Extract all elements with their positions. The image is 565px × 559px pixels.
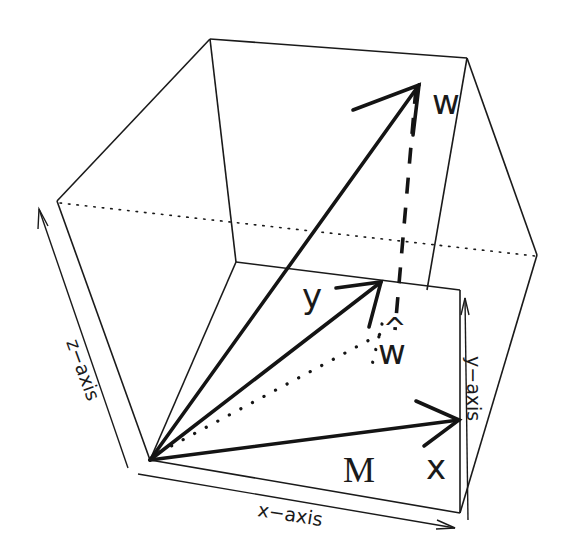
y-axis-label: y−axis (463, 356, 485, 421)
box-edge-right-top (467, 58, 537, 255)
box-edge-left-vertical (57, 201, 150, 460)
box-edge-top-left (57, 39, 210, 201)
box-edge-hidden-top (60, 203, 535, 256)
vector-w (150, 85, 419, 460)
x-axis-arrowhead (436, 520, 455, 529)
z-axis-label: z−axis (62, 336, 105, 404)
w-hat-label: w (378, 332, 406, 372)
plane-m-label: M (343, 450, 375, 490)
x-axis-label: x−axis (256, 498, 324, 530)
vector-projection-diagram: w y ^ w x M x−axis z−axis y−axis (0, 0, 565, 559)
w-vector-label: w (432, 82, 460, 122)
y-vector-label: y (302, 276, 322, 316)
box-edge-top-back (210, 39, 467, 58)
vector-x (150, 401, 459, 460)
w-vector-arrowhead (353, 85, 419, 135)
box-edge-back-vertical (210, 39, 236, 262)
w-vector-shaft (150, 85, 419, 460)
x-vector-label: x (426, 447, 446, 487)
